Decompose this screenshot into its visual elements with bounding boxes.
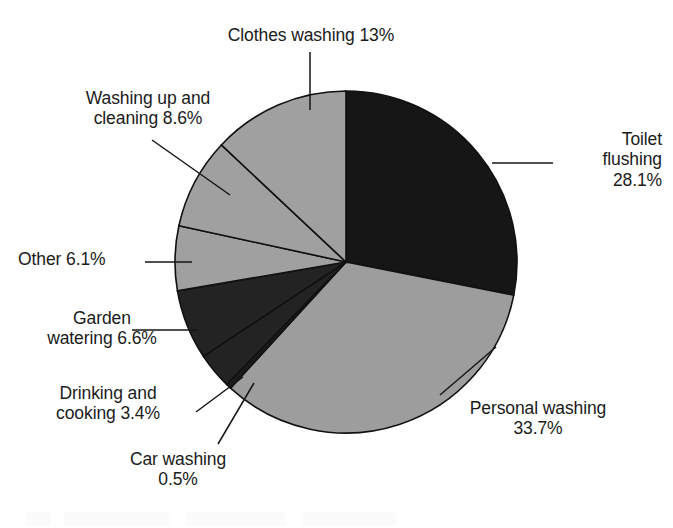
pie-label-other: Other 6.1% [18, 249, 158, 269]
pie-chart: Clothes washing 13% Washing up and clean… [0, 0, 673, 528]
pie-label-garden-watering: Garden watering 6.6% [22, 308, 182, 349]
pie-label-washing-up-and-cleaning: Washing up and cleaning 8.6% [48, 88, 248, 129]
pie-slices [175, 91, 517, 433]
pie-label-car-washing: Car washing 0.5% [98, 449, 258, 490]
pie-label-drinking-and-cooking: Drinking and cooking 3.4% [22, 383, 194, 424]
pie-label-personal-washing: Personal washing 33.7% [438, 398, 638, 439]
pie-label-clothes-washing: Clothes washing 13% [196, 25, 426, 45]
cropped-caption-remnant [26, 512, 446, 526]
pie-label-toilet-flushing: Toilet flushing 28.1% [554, 129, 662, 190]
slice-toilet-flushing[interactable] [346, 91, 517, 295]
leader-line-drinking-cooking [196, 377, 243, 412]
